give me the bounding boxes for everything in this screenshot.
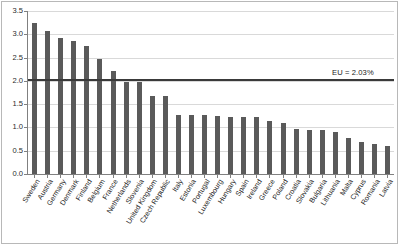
y-axis-tick <box>24 81 27 82</box>
bar <box>320 130 325 174</box>
bar-series <box>28 11 394 174</box>
bar-slot <box>342 11 355 174</box>
y-axis-tick-label: 1.0 <box>1 123 23 131</box>
bar <box>228 117 233 174</box>
eu-average-label: EU = 2.03% <box>332 68 374 77</box>
eu-average-line <box>28 79 394 81</box>
bar-slot <box>381 11 394 174</box>
bar <box>189 115 194 174</box>
bar-slot <box>250 11 263 174</box>
bar-chart: 3.53.02.52.01.51.00.50.0 EU = 2.03% Swed… <box>0 0 400 246</box>
y-axis-tick <box>24 58 27 59</box>
bar <box>346 138 351 174</box>
y-axis-tick <box>24 151 27 152</box>
plot-area <box>28 11 394 174</box>
bar <box>254 117 259 174</box>
bar <box>58 38 63 174</box>
bar-slot <box>41 11 54 174</box>
y-axis-tick-label: 0.5 <box>1 147 23 155</box>
y-axis-tick-label: 3.0 <box>1 30 23 38</box>
bar-slot <box>28 11 41 174</box>
bar <box>32 23 37 174</box>
bar <box>333 132 338 174</box>
y-axis-tick <box>24 11 27 12</box>
bar-slot <box>355 11 368 174</box>
y-axis-tick-label: 0.0 <box>1 170 23 178</box>
bar-slot <box>54 11 67 174</box>
bar-slot <box>263 11 276 174</box>
bar-slot <box>80 11 93 174</box>
y-axis-tick <box>24 127 27 128</box>
bar <box>385 146 390 174</box>
bar-slot <box>224 11 237 174</box>
bar-slot <box>316 11 329 174</box>
bar <box>307 130 312 174</box>
y-axis-tick <box>24 104 27 105</box>
bar-slot <box>159 11 172 174</box>
y-axis-tick-label: 3.5 <box>1 7 23 15</box>
bar <box>176 115 181 174</box>
x-axis-label-slot: Latvia <box>381 178 394 244</box>
bar-slot <box>185 11 198 174</box>
bar <box>97 59 102 174</box>
y-axis-tick <box>24 34 27 35</box>
bar <box>294 129 299 174</box>
bar <box>241 117 246 174</box>
bar <box>124 82 129 174</box>
bar-slot <box>198 11 211 174</box>
bar-slot <box>172 11 185 174</box>
bar <box>71 41 76 174</box>
y-axis-tick-label: 2.5 <box>1 54 23 62</box>
bar <box>150 96 155 174</box>
bar-slot <box>67 11 80 174</box>
bar-slot <box>237 11 250 174</box>
bar <box>84 46 89 174</box>
bar-slot <box>120 11 133 174</box>
bar-slot <box>146 11 159 174</box>
bar <box>267 121 272 174</box>
y-axis-tick-label: 1.5 <box>1 100 23 108</box>
bar <box>111 71 116 174</box>
y-axis-tick-label: 2.0 <box>1 77 23 85</box>
bar-slot <box>329 11 342 174</box>
bar <box>163 96 168 174</box>
bar <box>359 142 364 174</box>
y-axis-tick <box>24 174 27 175</box>
bar-slot <box>211 11 224 174</box>
bar <box>215 116 220 174</box>
bar-slot <box>276 11 289 174</box>
bar-slot <box>303 11 316 174</box>
y-axis-labels: 3.53.02.52.01.51.00.50.0 <box>0 11 23 174</box>
x-axis-labels: SwedenAustriaGermanyDenmarkFinlandBelgiu… <box>28 178 394 244</box>
bar <box>202 115 207 174</box>
bar <box>137 82 142 174</box>
bar-slot <box>368 11 381 174</box>
bar <box>45 31 50 174</box>
bar <box>372 144 377 174</box>
bar-slot <box>133 11 146 174</box>
bar <box>281 123 286 174</box>
bar-slot <box>93 11 106 174</box>
bar-slot <box>106 11 119 174</box>
bar-slot <box>290 11 303 174</box>
